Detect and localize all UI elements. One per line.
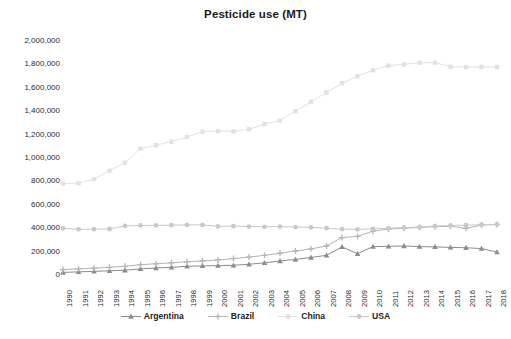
data-point bbox=[448, 65, 452, 69]
data-point bbox=[123, 160, 127, 164]
data-point bbox=[61, 182, 65, 186]
x-axis-tick: 1994 bbox=[128, 290, 136, 307]
x-axis-tick: 2014 bbox=[438, 290, 446, 307]
data-point bbox=[138, 146, 142, 150]
legend-marker-square-icon bbox=[278, 312, 298, 321]
data-point bbox=[154, 223, 159, 228]
y-axis-tick: 800,000 bbox=[2, 177, 60, 185]
x-axis-tick: 1996 bbox=[159, 290, 167, 307]
y-axis-tick: 1,400,000 bbox=[2, 107, 60, 115]
x-axis-tick: 1997 bbox=[175, 290, 183, 307]
y-axis-tick: 600,000 bbox=[2, 201, 60, 209]
x-axis-tick: 1991 bbox=[82, 290, 90, 307]
data-point bbox=[216, 224, 221, 229]
data-point bbox=[371, 226, 376, 231]
data-point bbox=[340, 81, 344, 85]
y-axis-tick: 200,000 bbox=[2, 248, 60, 256]
data-point bbox=[448, 223, 453, 228]
legend-item-china[interactable]: China bbox=[278, 312, 325, 321]
data-point bbox=[479, 222, 484, 227]
data-point bbox=[495, 65, 499, 69]
data-point bbox=[386, 63, 390, 67]
legend-item-usa[interactable]: USA bbox=[349, 312, 390, 321]
x-axis-tick: 2016 bbox=[469, 290, 477, 307]
data-point bbox=[293, 109, 297, 113]
chart-title: Pesticide use (MT) bbox=[0, 8, 511, 20]
data-point bbox=[91, 265, 97, 271]
x-axis-tick: 2003 bbox=[268, 290, 276, 307]
x-axis-tick: 2002 bbox=[252, 290, 260, 307]
x-axis-tick: 2013 bbox=[423, 290, 431, 307]
data-point bbox=[76, 181, 80, 185]
data-point bbox=[169, 139, 173, 143]
data-point bbox=[247, 224, 252, 229]
data-point bbox=[495, 222, 500, 227]
data-point bbox=[185, 135, 189, 139]
x-axis: 1990199119921993199419951996199719981999… bbox=[63, 277, 497, 309]
x-axis-tick: 2008 bbox=[345, 290, 353, 307]
legend-label: Brazil bbox=[231, 312, 254, 321]
series-line bbox=[63, 63, 497, 184]
data-point bbox=[324, 226, 329, 231]
x-axis-tick: 2000 bbox=[221, 290, 229, 307]
x-axis-tick: 2009 bbox=[361, 290, 369, 307]
x-axis-tick: 2015 bbox=[454, 290, 462, 307]
data-point bbox=[277, 250, 283, 256]
x-axis-tick: 2005 bbox=[299, 290, 307, 307]
legend-label: China bbox=[301, 312, 325, 321]
data-point bbox=[262, 224, 267, 229]
data-point bbox=[200, 129, 204, 133]
data-point bbox=[308, 246, 314, 252]
data-point bbox=[107, 169, 111, 173]
data-point bbox=[76, 227, 81, 232]
data-point bbox=[402, 225, 407, 230]
data-point bbox=[309, 100, 313, 104]
x-axis-tick: 2004 bbox=[283, 290, 291, 307]
data-point bbox=[107, 264, 113, 270]
data-point bbox=[309, 225, 314, 230]
plot-svg bbox=[63, 41, 497, 275]
series-usa bbox=[61, 222, 500, 232]
data-point bbox=[247, 127, 251, 131]
data-point bbox=[122, 263, 128, 269]
x-axis-tick: 2018 bbox=[500, 290, 508, 307]
data-point bbox=[371, 68, 375, 72]
data-point bbox=[169, 260, 175, 266]
data-point bbox=[293, 248, 299, 254]
series-argentina bbox=[60, 243, 500, 275]
data-point bbox=[479, 65, 483, 69]
x-axis-tick: 2010 bbox=[376, 290, 384, 307]
data-point bbox=[402, 62, 406, 66]
series-china bbox=[61, 60, 499, 185]
y-axis-tick: 0 bbox=[2, 271, 60, 279]
data-point bbox=[339, 244, 345, 249]
plot-area bbox=[63, 41, 497, 275]
data-point bbox=[154, 143, 158, 147]
data-point bbox=[60, 267, 66, 273]
data-point bbox=[355, 227, 360, 232]
data-point bbox=[339, 235, 345, 241]
legend-label: Argentina bbox=[144, 312, 184, 321]
data-point bbox=[184, 259, 190, 265]
data-point bbox=[464, 65, 468, 69]
data-point bbox=[262, 252, 268, 258]
data-point bbox=[200, 258, 206, 264]
data-point bbox=[107, 227, 112, 232]
data-point bbox=[215, 257, 221, 263]
data-point bbox=[433, 224, 438, 229]
data-point bbox=[355, 74, 359, 78]
pesticide-use-chart: Pesticide use (MT) 2,000,0001,800,0001,6… bbox=[0, 0, 511, 339]
data-point bbox=[278, 118, 282, 122]
data-point bbox=[200, 223, 205, 228]
data-point bbox=[169, 223, 174, 228]
data-point bbox=[153, 261, 159, 267]
data-point bbox=[433, 60, 437, 64]
data-point bbox=[293, 225, 298, 230]
y-axis: 2,000,0001,800,0001,600,0001,400,0001,20… bbox=[0, 0, 60, 339]
x-axis-tick: 2011 bbox=[392, 291, 400, 307]
chart-legend: ArgentinaBrazilChinaUSA bbox=[0, 312, 511, 321]
legend-item-brazil[interactable]: Brazil bbox=[208, 312, 254, 321]
y-axis-tick: 2,000,000 bbox=[2, 37, 60, 45]
x-axis-tick: 2001 bbox=[237, 290, 245, 307]
legend-item-argentina[interactable]: Argentina bbox=[121, 312, 184, 321]
